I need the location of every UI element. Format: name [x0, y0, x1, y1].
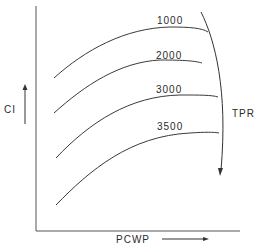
x-axis-arrow-icon: [162, 237, 209, 241]
x-axis-label: PCWP: [116, 234, 150, 245]
label-3500: 3500: [157, 121, 183, 132]
chart: CI PCWP 1000 2000 3000 3500 TPR: [0, 0, 263, 247]
curve-3500: [56, 132, 219, 205]
curve-1000: [54, 27, 208, 78]
y-axis-arrow-icon: [23, 84, 28, 124]
tpr-arrow-icon: [201, 12, 223, 176]
label-1000: 1000: [157, 15, 183, 26]
curve-3000: [56, 95, 218, 158]
label-2000: 2000: [156, 50, 182, 61]
y-axis-label: CI: [4, 104, 16, 115]
tpr-label: TPR: [232, 108, 255, 119]
label-3000: 3000: [156, 84, 182, 95]
